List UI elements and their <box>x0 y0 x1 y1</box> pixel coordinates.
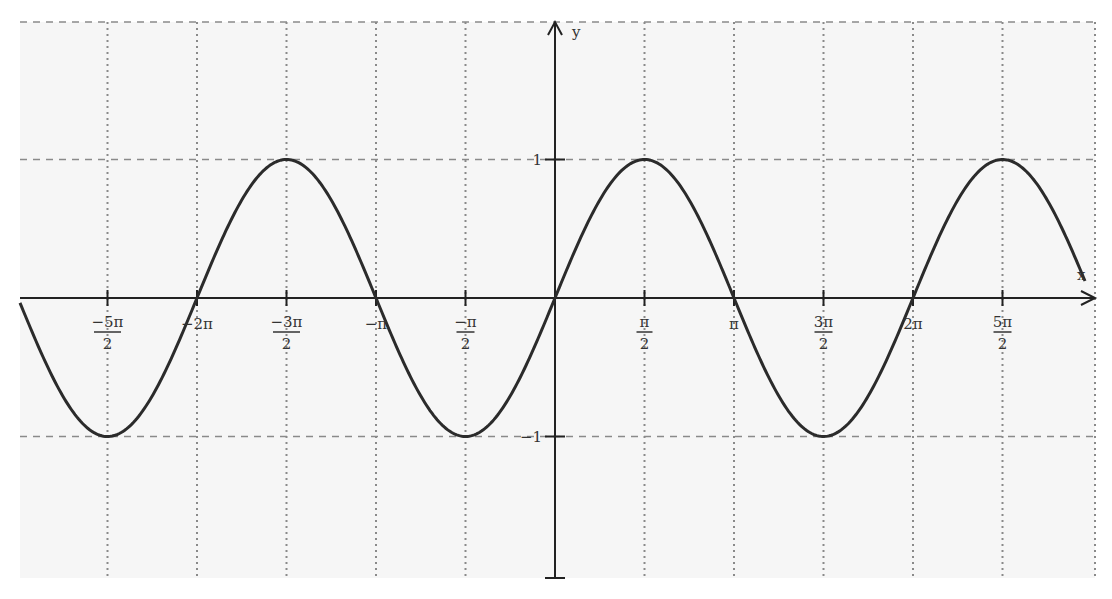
y-axis-label: y <box>571 23 581 41</box>
x-tick-label-text: −π <box>365 315 388 333</box>
x-tick-label-numerator: −5π <box>92 313 124 331</box>
x-tick-label-numerator: −π <box>454 313 477 331</box>
x-tick-label-numerator: 3π <box>814 313 834 331</box>
x-tick-label-text: π <box>729 315 739 333</box>
x-tick-label-text: −2π <box>181 315 213 333</box>
x-tick-label-numerator: π <box>640 313 650 331</box>
x-tick-label-denominator: 2 <box>998 335 1008 353</box>
x-tick-label-denominator: 2 <box>103 335 113 353</box>
y-tick-label: 1 <box>532 151 542 169</box>
x-tick-label-text: 2π <box>903 315 923 333</box>
x-tick-label: −π <box>365 315 388 333</box>
y-tick-label: −1 <box>520 428 542 446</box>
x-tick-label-denominator: 2 <box>819 335 829 353</box>
x-tick-label: −2π <box>181 315 213 333</box>
x-tick-label: π <box>729 315 739 333</box>
x-tick-label-denominator: 2 <box>461 335 471 353</box>
x-axis-label: x <box>1077 266 1086 284</box>
x-tick-label-numerator: 5π <box>993 313 1013 331</box>
sine-chart: −5π2−2π−3π2−π−π2π2π3π22π5π2 1−1 x y <box>0 0 1112 599</box>
plot-background <box>20 22 1095 578</box>
x-tick-label-denominator: 2 <box>640 335 650 353</box>
x-tick-label: 2π <box>903 315 923 333</box>
x-tick-label-denominator: 2 <box>282 335 292 353</box>
x-tick-label-numerator: −3π <box>271 313 303 331</box>
